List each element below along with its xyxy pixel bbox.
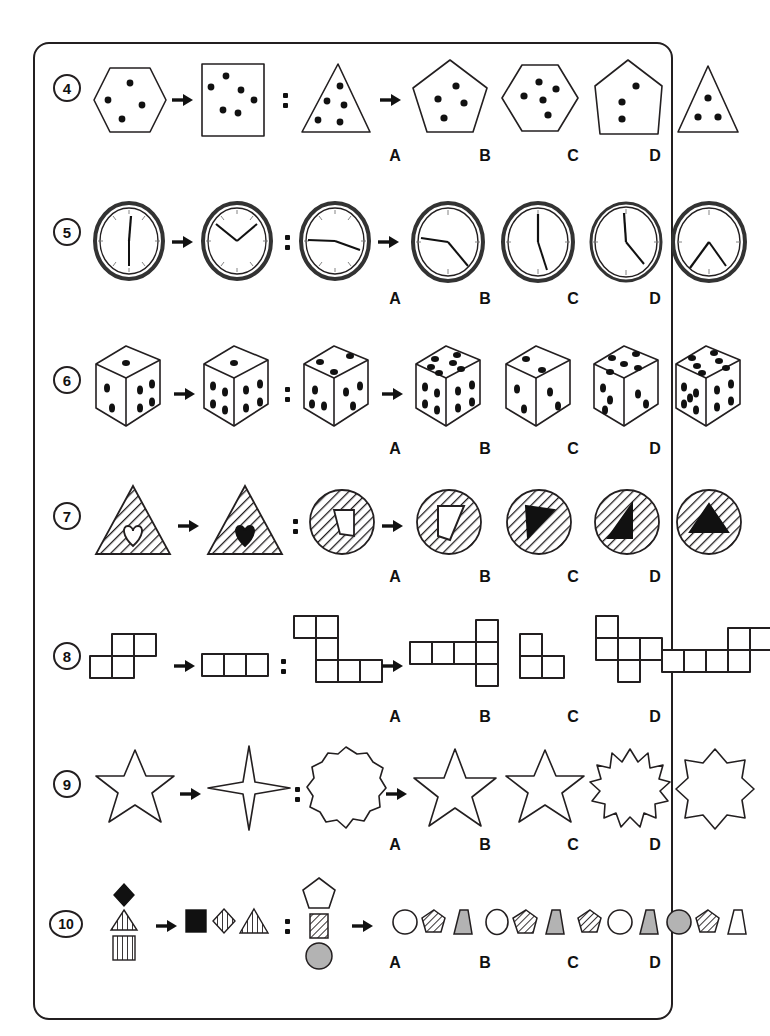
q4-arrow-2 xyxy=(380,88,402,112)
question-row-10: 10 xyxy=(35,872,671,1002)
q6-option-b[interactable] xyxy=(500,342,580,434)
q7-term3-hatched-circle-white-quad xyxy=(306,484,378,560)
q8-arrow-1 xyxy=(174,654,196,678)
question-5-stage xyxy=(90,192,670,287)
q4-option-d[interactable] xyxy=(670,60,748,140)
q9-colon xyxy=(292,782,302,806)
q10-option-a[interactable] xyxy=(390,904,476,940)
q10-label-d: D xyxy=(635,954,675,972)
q10-colon xyxy=(282,914,292,938)
q4-term2-square-6-dots xyxy=(196,58,272,142)
q9-label-b: B xyxy=(465,836,505,854)
question-number-6: 6 xyxy=(53,366,81,394)
q9-label-a: A xyxy=(375,836,415,854)
q7-option-c[interactable] xyxy=(590,484,664,560)
q6-option-d[interactable] xyxy=(670,342,750,434)
q9-arrow-2 xyxy=(386,782,408,806)
colon-dot-top xyxy=(283,93,288,98)
q5-option-a[interactable] xyxy=(410,200,486,284)
q4-label-c: C xyxy=(553,147,593,165)
q10-option-c[interactable] xyxy=(574,904,660,940)
q7-label-d: D xyxy=(635,568,675,586)
question-number-10: 10 xyxy=(49,910,83,938)
q7-arrow-1 xyxy=(178,514,200,538)
q8-term1-polyomino xyxy=(92,624,170,692)
question-row-9: 9 xyxy=(35,736,671,866)
q5-label-c: C xyxy=(553,290,593,308)
colon-dot-top xyxy=(285,919,290,924)
question-number-8: 8 xyxy=(53,642,81,670)
worksheet-card: 4 xyxy=(33,42,673,1020)
q10-option-d[interactable] xyxy=(664,904,750,940)
q6-option-a[interactable] xyxy=(410,342,490,434)
question-6-stage xyxy=(90,336,670,431)
question-4-stage xyxy=(90,52,670,147)
q8-colon xyxy=(278,654,288,678)
q4-option-b[interactable] xyxy=(498,60,582,140)
q8-option-d[interactable] xyxy=(660,618,770,694)
q8-option-b[interactable] xyxy=(510,620,576,694)
q5-arrow-1 xyxy=(172,230,194,254)
q8-label-c: C xyxy=(553,708,593,726)
colon-dot-top xyxy=(295,787,300,792)
q4-option-c[interactable] xyxy=(588,56,668,144)
q9-term3-scalloped-circle xyxy=(304,744,388,832)
q4-label-a: A xyxy=(375,147,415,165)
question-number-7: 7 xyxy=(53,502,81,530)
q5-option-d[interactable] xyxy=(670,200,748,284)
q5-label-a: A xyxy=(375,290,415,308)
q9-option-c[interactable] xyxy=(590,746,670,832)
q7-option-b[interactable] xyxy=(502,484,576,560)
q7-option-a[interactable] xyxy=(412,484,486,560)
q10-arrow-1 xyxy=(156,914,178,938)
q8-option-a[interactable] xyxy=(408,612,506,700)
q5-colon xyxy=(282,230,292,254)
q5-option-c[interactable] xyxy=(588,200,664,284)
q9-option-b[interactable] xyxy=(502,746,588,832)
q7-option-d[interactable] xyxy=(672,484,746,560)
question-number-9: 9 xyxy=(53,770,81,798)
q8-label-b: B xyxy=(465,708,505,726)
q6-label-c: C xyxy=(553,440,593,458)
q4-term1-hexagon-4-dots xyxy=(90,62,170,138)
colon-dot-top xyxy=(285,387,290,392)
question-row-6: 6 xyxy=(35,336,671,466)
q6-colon xyxy=(282,382,292,406)
q9-label-d: D xyxy=(635,836,675,854)
q10-option-b[interactable] xyxy=(482,904,568,940)
q5-term3-clock xyxy=(298,200,372,282)
colon-dot-bottom xyxy=(285,929,290,934)
q4-option-a[interactable] xyxy=(408,56,492,142)
q8-term2-polyomino xyxy=(200,624,274,692)
q10-label-c: C xyxy=(553,954,593,972)
colon-dot-bottom xyxy=(295,797,300,802)
q9-option-a[interactable] xyxy=(412,746,498,832)
question-number-5: 5 xyxy=(53,218,81,246)
q8-option-c[interactable] xyxy=(584,610,664,702)
q5-arrow-2 xyxy=(378,230,400,254)
q4-arrow-1 xyxy=(172,88,194,112)
q4-label-b: B xyxy=(465,147,505,165)
q6-label-d: D xyxy=(635,440,675,458)
q9-option-d[interactable] xyxy=(674,746,756,832)
q6-term1-die xyxy=(90,342,170,434)
question-row-7: 7 xyxy=(35,472,671,602)
question-8-stage xyxy=(90,606,670,701)
q6-label-b: B xyxy=(465,440,505,458)
question-9-stage xyxy=(90,736,670,831)
q7-arrow-2 xyxy=(382,514,404,538)
question-row-5: 5 xyxy=(35,192,671,322)
q9-arrow-1 xyxy=(180,782,202,806)
q7-label-a: A xyxy=(375,568,415,586)
colon-dot-bottom xyxy=(293,529,298,534)
q4-term3-triangle-5-dots xyxy=(296,60,376,140)
q10-label-b: B xyxy=(465,954,505,972)
q8-arrow-2 xyxy=(382,654,404,678)
q10-label-a: A xyxy=(375,954,415,972)
q6-arrow-2 xyxy=(382,382,404,406)
question-row-8: 8 xyxy=(35,606,671,736)
q5-option-b[interactable] xyxy=(500,200,576,284)
q6-option-c[interactable] xyxy=(588,342,668,434)
question-number-4: 4 xyxy=(53,74,81,102)
q5-label-d: D xyxy=(635,290,675,308)
